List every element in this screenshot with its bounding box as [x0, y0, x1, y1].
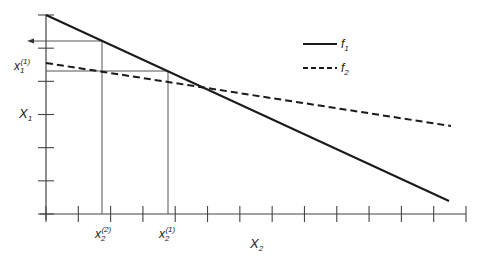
- x2-1-marker-label: x2(1): [158, 225, 176, 243]
- x-axis-label: X2: [249, 236, 264, 253]
- legend: f1 f2: [303, 37, 349, 77]
- line-f2: [46, 63, 451, 126]
- legend-label-f2: f2: [341, 61, 349, 77]
- line-f1: [46, 15, 449, 201]
- x2-2-marker-label: x2(2): [94, 225, 112, 243]
- diagram-canvas: f1 f2 X1 X2 x1(1) x2(2) x2(1): [0, 0, 479, 259]
- x1-1-marker-label: x1(1): [13, 57, 31, 75]
- arrow-head-icon: [27, 39, 34, 44]
- y-axis-label: X1: [18, 106, 32, 123]
- legend-label-f1: f1: [341, 37, 349, 53]
